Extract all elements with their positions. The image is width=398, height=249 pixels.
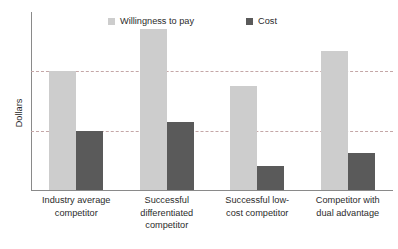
- category-label-line: Industry average: [31, 194, 122, 207]
- x-axis-category-label: Industry averagecompetitor: [31, 194, 122, 219]
- bar-willingness-to-pay: [230, 86, 257, 190]
- category-label-line: competitor: [122, 219, 213, 232]
- category-label-line: Successful low-: [212, 194, 303, 207]
- category-label-line: Successful: [122, 194, 213, 207]
- bar-group: [212, 12, 303, 190]
- plot-area: [31, 12, 393, 190]
- bar-cost: [257, 166, 284, 190]
- x-axis-category-label: Successfuldifferentiatedcompetitor: [122, 194, 213, 232]
- bar-group: [122, 12, 213, 190]
- category-label-line: cost competitor: [212, 207, 303, 220]
- bar-chart: Willingness to pay Cost Dollars Industry…: [0, 0, 398, 249]
- category-label-line: competitor: [31, 207, 122, 220]
- bar-cost: [348, 153, 375, 190]
- bar-willingness-to-pay: [321, 51, 348, 190]
- bar-group: [31, 12, 122, 190]
- category-label-line: Competitor with: [303, 194, 394, 207]
- x-axis-line: [31, 190, 393, 191]
- x-axis-category-label: Competitor withdual advantage: [303, 194, 394, 219]
- bar-cost: [167, 122, 194, 190]
- category-label-line: dual advantage: [303, 207, 394, 220]
- bar-willingness-to-pay: [49, 71, 76, 190]
- category-label-line: differentiated: [122, 207, 213, 220]
- bar-willingness-to-pay: [140, 29, 167, 190]
- bar-group: [303, 12, 394, 190]
- y-axis-title: Dollars: [14, 83, 24, 143]
- x-axis-category-label: Successful low-cost competitor: [212, 194, 303, 219]
- bar-cost: [76, 131, 103, 190]
- x-axis-category-labels: Industry averagecompetitorSuccessfuldiff…: [31, 194, 393, 249]
